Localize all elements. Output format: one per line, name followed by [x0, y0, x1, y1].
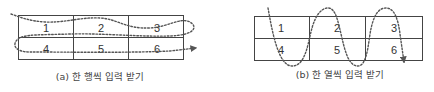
cell-4: 4 — [278, 44, 284, 56]
cell-4: 4 — [43, 43, 49, 55]
cell-5: 5 — [334, 44, 340, 56]
cell-6: 6 — [391, 44, 397, 56]
cell-3: 3 — [391, 22, 397, 34]
diagram-column-wise: 1 2 3 4 5 6 (b) 한 열씩 입력 받기 — [255, 8, 423, 80]
input-order-diagrams: 1 2 3 4 5 6 (a) 한 행씩 입력 받기 1 2 3 4 5 6 (… — [0, 0, 434, 92]
cell-5: 5 — [98, 43, 104, 55]
diagram-row-wise: 1 2 3 4 5 6 (a) 한 행씩 입력 받기 — [11, 14, 196, 82]
cell-1: 1 — [278, 22, 284, 34]
caption-b: (b) 한 열씩 입력 받기 — [296, 69, 385, 80]
cell-2: 2 — [98, 22, 104, 34]
cell-6: 6 — [154, 43, 160, 55]
cell-labels-a: 1 2 3 4 5 6 — [43, 22, 160, 55]
cell-1: 1 — [43, 22, 49, 34]
caption-a: (a) 한 행씩 입력 받기 — [56, 71, 144, 82]
